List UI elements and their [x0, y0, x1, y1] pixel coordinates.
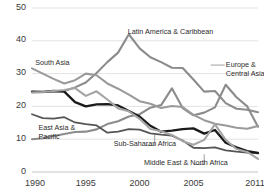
x-tick-label-2000: 2000 [120, 178, 160, 188]
y-tick-label-0: 0 [4, 166, 26, 176]
series-label-latin-america-caribbean: Latin America & Caribbean [128, 28, 214, 36]
leader-lines [146, 65, 225, 164]
series-label-middle-east-north-africa: Middle East & North Africa [144, 159, 228, 167]
y-tick-label-10: 10 [4, 133, 26, 143]
y-tick-label-50: 50 [4, 2, 26, 12]
series-label-sub-saharan-africa: Sub-Saharan Africa [114, 140, 176, 148]
series-label-east-asia-pacific: East Asia & Pacific [38, 124, 82, 141]
series-label-europe-central-asia: Europe & Central Asia [226, 61, 264, 78]
x-tick-label-2011: 2011 [235, 178, 264, 188]
x-tick-label-2005: 2005 [173, 178, 213, 188]
series-label-south-asia: South Asia [35, 59, 69, 67]
series-line-south-asia [32, 68, 258, 128]
y-tick-label-40: 40 [4, 34, 26, 44]
x-tick-label-1995: 1995 [66, 178, 106, 188]
line-chart: 01020304050 19901995200020052011 Latin A… [0, 0, 264, 196]
y-tick-label-20: 20 [4, 100, 26, 110]
y-tick-label-30: 30 [4, 67, 26, 77]
x-tick-label-1990: 1990 [15, 178, 55, 188]
